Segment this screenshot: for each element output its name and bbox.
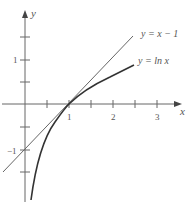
x-tick-label-2: 2 — [111, 112, 116, 122]
curve-y-equals-ln-x — [31, 65, 134, 200]
x-tick-label-3: 3 — [155, 112, 160, 122]
line-label: y = x − 1 — [140, 28, 178, 39]
y-axis-label: y — [30, 7, 36, 19]
y-tick-label-neg1: −1 — [7, 146, 17, 156]
x-tick-label-1: 1 — [67, 112, 72, 122]
y-axis-arrow-icon — [22, 10, 28, 18]
x-axis-label: x — [179, 105, 185, 117]
log-label: y = ln x — [137, 55, 169, 66]
y-tick-label-1: 1 — [13, 55, 18, 65]
chart: x y 1 2 3 1 −1 y = x − 1 y = ln x — [0, 0, 186, 203]
